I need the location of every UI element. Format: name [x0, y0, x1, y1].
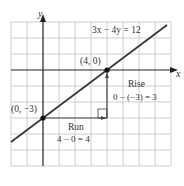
- y-axis-label: y: [37, 8, 43, 19]
- equation-label: 3x − 4y = 12: [92, 25, 141, 35]
- y-intercept-point: [40, 115, 45, 120]
- rise-calc: 0 − (−3) = 3: [113, 92, 157, 102]
- run-calc: 4 − 0 = 4: [57, 134, 90, 144]
- y-intercept-label: (0, −3): [11, 104, 37, 115]
- rise-arrow-icon: [105, 73, 109, 78]
- run-label: Run: [68, 122, 84, 132]
- x-axis-label: x: [175, 68, 181, 79]
- x-intercept-point: [104, 67, 109, 72]
- coordinate-plane: y x 3x − 4y = 12 (4, 0) (0, −3) Rise 0 −…: [0, 0, 184, 186]
- rise-label: Rise: [128, 79, 145, 89]
- x-intercept-label: (4, 0): [80, 56, 101, 67]
